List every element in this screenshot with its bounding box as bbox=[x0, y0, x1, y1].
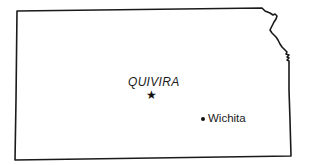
city-dot-icon bbox=[201, 117, 205, 121]
wichita-label: Wichita bbox=[208, 112, 246, 124]
quivira-label: QUIVIRA bbox=[128, 75, 179, 89]
star-icon: ★ bbox=[146, 89, 157, 101]
